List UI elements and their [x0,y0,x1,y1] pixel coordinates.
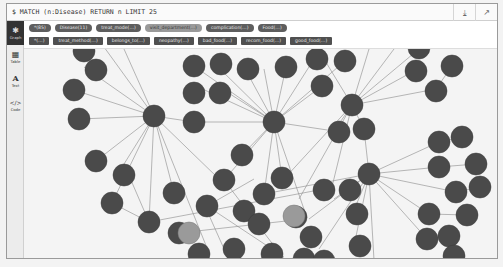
sidebar-item-code[interactable]: </> Code [7,93,24,117]
legend-node-complication[interactable]: complication(…) [206,24,254,32]
legend-rel-all[interactable]: *(…) [29,37,49,45]
legend-rel-bad-food[interactable]: bad_food(…) [198,37,237,45]
legend-node-food[interactable]: Food(…) [258,24,287,32]
text-icon: A [12,74,18,83]
legend-rel-belongs-to[interactable]: belongs_to(…) [107,37,150,45]
legend-node-all[interactable]: *(85) [29,24,51,32]
relationship-type-legend: *(…) treat_method(…) belongs_to(…) neopa… [29,37,332,46]
result-frame: $ MATCH (n:Disease) RETURN n LIMIT 25 ⤓ … [6,3,498,259]
legend-rel-good-food[interactable]: good_food(…) [290,37,332,45]
table-icon: ▦ [12,50,20,59]
graph-icon: ✱ [12,26,19,35]
legend-rel-recom-food[interactable]: recom_food(…) [241,37,286,45]
view-sidebar: ✱ Graph ▦ Table A Text </> Code [7,21,24,258]
download-button[interactable]: ⤓ [453,4,475,21]
legend-rel-neopathy[interactable]: neopathy(…) [154,37,194,45]
sidebar-item-text[interactable]: A Text [7,69,24,93]
legend-rel-treat-method[interactable]: treat_method(…) [53,37,102,45]
graph-svg[interactable] [24,49,498,259]
sidebar-item-graph[interactable]: ✱ Graph [7,21,24,45]
code-icon: </> [9,98,21,107]
legend-node-disease[interactable]: Disease(11) [55,24,93,32]
sidebar-item-table[interactable]: ▦ Table [7,45,24,69]
pin-button[interactable]: ↗ [475,4,497,21]
node-label-legend: *(85) Disease(11) treat_mode(…) visit_de… [29,24,287,33]
legend-node-visit-department[interactable]: visit_department(…) [145,24,202,32]
graph-nodes [63,49,491,259]
pin-icon: ↗ [483,8,490,17]
query-bar: $ MATCH (n:Disease) RETURN n LIMIT 25 ⤓ … [7,4,497,21]
download-icon: ⤓ [463,8,467,18]
legend-node-treat-mode[interactable]: treat_mode(…) [96,24,141,32]
graph-canvas[interactable] [24,49,497,258]
graph-legend: *(85) Disease(11) treat_mode(…) visit_de… [24,21,497,49]
query-text[interactable]: $ MATCH (n:Disease) RETURN n LIMIT 25 [12,8,157,16]
